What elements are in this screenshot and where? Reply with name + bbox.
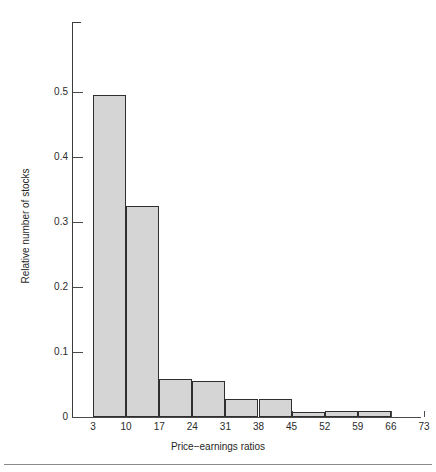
x-tick-label: 3 [78, 421, 108, 432]
x-tick-label: 24 [177, 421, 207, 432]
y-tick-label: 0.2 [34, 282, 68, 292]
x-tick-label: 52 [310, 421, 340, 432]
y-tick-mark [73, 352, 83, 353]
histogram-bar [126, 206, 159, 417]
x-tick-label: 38 [244, 421, 274, 432]
y-tick-mark [73, 92, 83, 93]
y-tick-mark [73, 157, 83, 158]
histogram-bar [225, 399, 258, 417]
x-tick-label: 73 [409, 421, 436, 432]
y-tick-label-wrap: 0.2 [28, 282, 68, 292]
x-tick-label: 17 [144, 421, 174, 432]
plot-area: 00.10.20.30.40.5 310172431384552596673 R… [0, 0, 436, 472]
x-axis-title: Price−earnings ratios [0, 441, 436, 453]
y-tick-label-wrap: 0 [28, 412, 68, 422]
histogram-bar [325, 411, 358, 418]
y-tick-label: 0 [34, 412, 68, 422]
histogram-bar [192, 381, 225, 417]
histogram-bar [292, 412, 325, 417]
y-tick-label-wrap: 0.1 [28, 347, 68, 357]
y-tick-label: 0.5 [34, 87, 68, 97]
y-axis-title: Relative number of stocks [20, 136, 32, 316]
histogram-figure: 00.10.20.30.40.5 310172431384552596673 R… [0, 0, 436, 472]
x-axis-line [72, 417, 421, 418]
y-axis-top-cap [72, 22, 81, 23]
histogram-bar [93, 95, 126, 417]
y-tick-label: 0.3 [34, 217, 68, 227]
x-tick-label: 66 [376, 421, 406, 432]
footer-divider [4, 464, 432, 465]
y-axis-line [72, 22, 73, 418]
y-tick-label: 0.1 [34, 347, 68, 357]
histogram-bar [159, 379, 192, 417]
y-tick-mark [73, 287, 83, 288]
x-tick-mark [391, 411, 392, 417]
x-tick-label: 59 [343, 421, 373, 432]
x-tick-label: 10 [111, 421, 141, 432]
x-tick-label: 31 [210, 421, 240, 432]
x-tick-mark [424, 411, 425, 417]
y-tick-mark [73, 222, 83, 223]
y-tick-mark [73, 417, 83, 418]
y-tick-label-wrap: 0.3 [28, 217, 68, 227]
y-tick-label-wrap: 0.5 [28, 87, 68, 97]
y-tick-label-wrap: 0.4 [28, 152, 68, 162]
y-tick-label: 0.4 [34, 152, 68, 162]
histogram-bar [358, 411, 391, 418]
histogram-bar [259, 399, 292, 417]
x-tick-label: 45 [277, 421, 307, 432]
